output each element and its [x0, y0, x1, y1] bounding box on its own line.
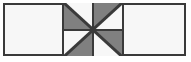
right-panel [124, 5, 184, 54]
pinwheel [62, 3, 124, 56]
quadrant-top-left [64, 3, 93, 30]
left-panel [5, 5, 62, 54]
quadrant-bottom-left-shape [64, 30, 93, 57]
quadrant-top-left-shape [64, 3, 93, 30]
quadrant-top-right-shape [93, 3, 122, 30]
quadrant-bottom-right-shape [93, 30, 122, 57]
quadrant-bottom-left [64, 30, 93, 57]
figure-canvas [0, 0, 191, 62]
quadrant-top-right [93, 3, 122, 30]
quadrant-bottom-right [93, 30, 122, 57]
